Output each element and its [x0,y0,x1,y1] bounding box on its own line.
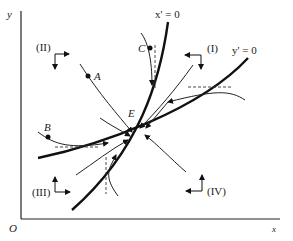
y-nullcline-label: y' = 0 [232,44,257,56]
region-label-i: (I) [207,42,218,55]
phase-diagram: y x O x' = 0 y' = 0 A B [0,0,293,241]
point-b [46,135,51,140]
region-label-iv: (IV) [207,185,226,198]
point-a-label: A [93,70,101,82]
origin-label: O [9,222,17,234]
direction-indicator-iv [186,175,202,191]
trajectories [38,33,245,196]
region-label-iii: (III) [32,186,51,199]
direction-indicator-i [185,55,201,69]
trajectory-i-straight [140,65,193,128]
direction-indicator-iii [55,177,70,192]
trajectory-c [141,33,152,85]
point-c [148,46,153,51]
trajectory-right [168,93,245,102]
trajectory-bottom [109,163,118,196]
point-c-label: C [138,42,146,54]
region-label-ii: (II) [36,41,51,54]
axes [21,11,280,219]
trajectory-left-e [100,118,130,136]
point-a [86,74,91,79]
x-nullcline [72,22,168,210]
trajectory-iv [145,135,186,172]
equilibrium-label: E [127,107,135,119]
x-nullcline-label: x' = 0 [155,8,180,20]
y-nullcline [38,58,248,158]
direction-indicator-ii [55,54,69,69]
x-axis-label: x [271,224,276,234]
point-b-label: B [44,121,51,133]
y-axis-label: y [6,8,12,20]
